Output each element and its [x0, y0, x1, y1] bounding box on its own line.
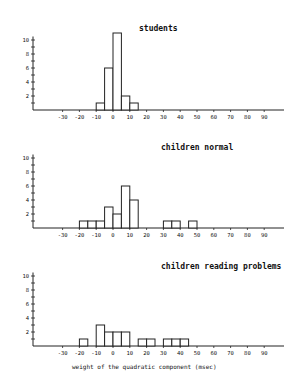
y-tick-label: 8 — [26, 287, 29, 293]
histogram-bar — [172, 339, 180, 346]
y-tick-label: 8 — [26, 169, 29, 175]
x-tick-label: 90 — [261, 114, 268, 120]
histogram-bar — [88, 221, 96, 228]
x-axis-label: weight of the quadratic component (msec) — [72, 363, 217, 370]
histogram-bar — [130, 200, 138, 228]
y-tick-label: 8 — [26, 51, 29, 57]
histogram-bar — [180, 339, 188, 346]
x-tick-label: 30 — [160, 232, 167, 238]
panel-title-students: students — [139, 24, 178, 33]
x-tick-label: -30 — [58, 114, 68, 120]
x-tick-label: 40 — [177, 232, 184, 238]
y-tick-label: 10 — [22, 37, 29, 43]
x-tick-label: 50 — [194, 350, 201, 356]
histogram-bar — [105, 207, 113, 228]
histogram-bar — [163, 221, 171, 228]
x-tick-label: 80 — [244, 114, 251, 120]
y-tick-label: 2 — [26, 93, 29, 99]
histogram-bar — [121, 186, 129, 228]
histogram-panel: 246810-30-20-100102030405060708090 — [22, 155, 284, 239]
x-tick-label: 10 — [126, 232, 133, 238]
panel-title-children-reading-problems: children reading problems — [161, 262, 281, 271]
x-tick-label: 20 — [143, 232, 150, 238]
histogram-bar — [96, 325, 104, 346]
histogram-bar — [121, 96, 129, 110]
histogram-bar — [121, 332, 129, 346]
histogram-bar — [172, 221, 180, 228]
histogram-bar — [113, 332, 121, 346]
y-tick-label: 6 — [26, 65, 29, 71]
histogram-bar — [96, 221, 104, 228]
y-tick-label: 2 — [26, 329, 29, 335]
y-tick-label: 6 — [26, 301, 29, 307]
histogram-bar — [105, 332, 113, 346]
x-tick-label: 20 — [143, 350, 150, 356]
histogram-bar — [96, 103, 104, 110]
x-tick-label: -20 — [74, 350, 84, 356]
x-tick-label: -10 — [91, 350, 101, 356]
histogram-bar — [113, 33, 121, 110]
histogram-bar — [163, 339, 171, 346]
x-tick-label: 40 — [177, 350, 184, 356]
x-tick-label: 80 — [244, 232, 251, 238]
x-tick-label: -20 — [74, 114, 84, 120]
y-tick-label: 10 — [22, 155, 29, 161]
y-tick-label: 10 — [22, 273, 29, 279]
x-tick-label: -10 — [91, 114, 101, 120]
panel-title-children-normal: children normal — [161, 143, 233, 152]
x-tick-label: 70 — [227, 232, 234, 238]
x-tick-label: 60 — [210, 350, 217, 356]
histogram-panel: 246810-30-20-100102030405060708090 — [22, 33, 284, 120]
x-tick-label: 10 — [126, 350, 133, 356]
x-tick-label: 40 — [177, 114, 184, 120]
x-tick-label: 60 — [210, 232, 217, 238]
x-tick-label: 80 — [244, 350, 251, 356]
y-tick-label: 4 — [26, 197, 30, 203]
x-tick-label: -30 — [58, 350, 68, 356]
y-tick-label: 2 — [26, 211, 29, 217]
x-tick-label: -10 — [91, 232, 101, 238]
x-tick-label: 0 — [111, 232, 114, 238]
y-tick-label: 4 — [26, 315, 30, 321]
histogram-bar — [138, 339, 146, 346]
x-tick-label: 0 — [111, 350, 114, 356]
y-tick-label: 4 — [26, 79, 30, 85]
x-tick-label: 90 — [261, 350, 268, 356]
histogram-bar — [113, 214, 121, 228]
y-tick-label: 6 — [26, 183, 29, 189]
x-tick-label: 70 — [227, 350, 234, 356]
x-tick-label: 60 — [210, 114, 217, 120]
x-tick-label: -30 — [58, 232, 68, 238]
histogram-bar — [189, 221, 197, 228]
x-tick-label: -20 — [74, 232, 84, 238]
x-tick-label: 50 — [194, 232, 201, 238]
histogram-bar — [130, 103, 138, 110]
histogram-bar — [105, 68, 113, 110]
x-tick-label: 50 — [194, 114, 201, 120]
histogram-panel: 246810-30-20-100102030405060708090 — [22, 273, 284, 357]
histogram-bar — [79, 339, 87, 346]
x-tick-label: 10 — [126, 114, 133, 120]
x-tick-label: 0 — [111, 114, 114, 120]
histogram-bar — [79, 221, 87, 228]
x-tick-label: 20 — [143, 114, 150, 120]
x-tick-label: 30 — [160, 350, 167, 356]
x-tick-label: 90 — [261, 232, 268, 238]
x-tick-label: 30 — [160, 114, 167, 120]
histograms-svg: 246810-30-20-100102030405060708090246810… — [0, 0, 307, 390]
x-tick-label: 70 — [227, 114, 234, 120]
histogram-bar — [147, 339, 155, 346]
